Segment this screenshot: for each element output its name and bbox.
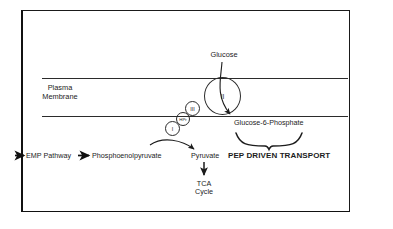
diagram-canvas: Plasma Membrane Glucose Glucose-6-Phosph…: [0, 0, 393, 229]
glucose-label: Glucose: [193, 51, 255, 60]
emp-pathway-label: EMP Pathway: [26, 152, 71, 160]
pep-driven-transport-label: PEP DRIVEN TRANSPORT: [228, 151, 330, 160]
enzyme-ii-label: II: [221, 93, 225, 100]
enzyme-iii-label: III: [190, 106, 195, 112]
glucose-6-phosphate-label: Glucose-6-Phosphate: [234, 119, 304, 127]
plasma-membrane-label-line2: Membrane: [32, 93, 88, 102]
enzyme-i-circle: I: [165, 121, 180, 136]
hpr-carrier-label: HPr: [179, 117, 186, 122]
tca-cycle-label-line2: Cycle: [182, 188, 226, 196]
phosphoenolpyruvate-label: Phosphoenolpyruvate: [92, 152, 162, 160]
tca-cycle-label: TCA Cycle: [182, 180, 226, 197]
plasma-membrane-outer-line: [42, 78, 348, 79]
enzyme-ii-circle: II: [204, 77, 241, 115]
plasma-membrane-label: Plasma Membrane: [32, 84, 88, 101]
pyruvate-label: Pyruvate: [191, 152, 219, 160]
enzyme-i-label: I: [172, 126, 174, 132]
